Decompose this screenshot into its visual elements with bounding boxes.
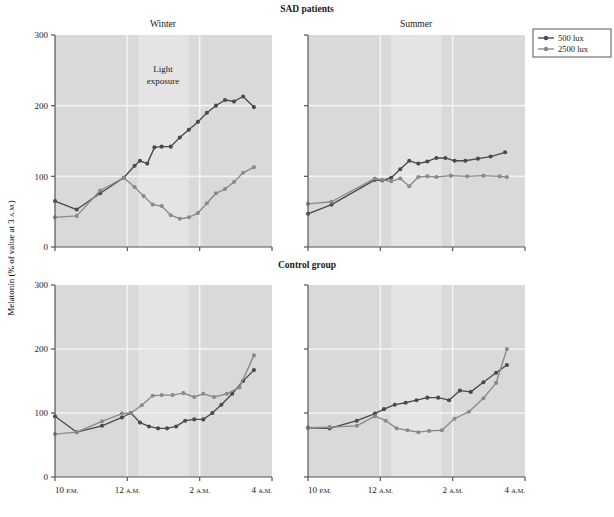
data-point <box>465 174 469 178</box>
x-tick-label-24: 12 A.M. <box>115 485 140 495</box>
data-point <box>395 426 399 430</box>
legend-label: 2500 lux <box>558 44 589 54</box>
data-point <box>75 214 79 218</box>
data-point <box>427 429 431 433</box>
data-point <box>183 419 187 423</box>
data-point <box>223 98 227 102</box>
data-point <box>196 211 200 215</box>
data-point <box>138 421 142 425</box>
data-point <box>223 187 227 191</box>
data-point <box>494 381 498 385</box>
data-point <box>100 424 104 428</box>
data-point <box>201 392 205 396</box>
data-point <box>481 396 485 400</box>
data-point <box>425 174 429 178</box>
data-point <box>122 176 126 180</box>
data-point <box>382 407 386 411</box>
data-point <box>98 188 102 192</box>
light-exposure-line2: exposure <box>147 76 180 86</box>
data-point <box>201 417 205 421</box>
legend-swatch-marker <box>544 36 548 40</box>
data-point <box>151 203 155 207</box>
data-point <box>160 393 164 397</box>
y-tick-label-200: 200 <box>35 344 49 354</box>
data-point <box>449 174 453 178</box>
data-point <box>443 156 447 160</box>
data-point <box>414 398 418 402</box>
data-point <box>329 200 333 204</box>
data-point <box>440 428 444 432</box>
data-point <box>120 412 124 416</box>
data-point <box>494 371 498 375</box>
data-point <box>373 414 377 418</box>
data-point <box>75 208 79 212</box>
legend-swatch-marker <box>544 47 548 51</box>
data-point <box>196 120 200 124</box>
x-tick-label-26: 2 A.M. <box>442 485 463 495</box>
data-point <box>142 194 146 198</box>
data-point <box>192 395 196 399</box>
y-tick-label-0: 0 <box>44 242 49 252</box>
group-title-control: Control group <box>278 260 336 270</box>
data-point <box>416 430 420 434</box>
data-point <box>434 175 438 179</box>
data-point <box>237 385 241 389</box>
data-point <box>398 176 402 180</box>
data-point <box>75 430 79 434</box>
panel-title-summer: Summer <box>400 19 433 29</box>
data-point <box>434 156 438 160</box>
data-point <box>355 424 359 428</box>
data-point <box>425 159 429 163</box>
data-point <box>476 157 480 161</box>
light-exposure-band <box>391 285 442 477</box>
data-point <box>407 184 411 188</box>
data-point <box>169 213 173 217</box>
data-point <box>187 128 191 132</box>
data-point <box>252 368 256 372</box>
x-tick-label-22: 10 P.M. <box>55 485 79 495</box>
panel-sad-summer <box>304 35 525 251</box>
data-point <box>481 380 485 384</box>
data-point <box>355 419 359 423</box>
y-axis-title: Melatonin (% of value at 3 A.M.) <box>6 200 16 316</box>
data-point <box>156 426 160 430</box>
data-point <box>389 179 393 183</box>
data-point <box>145 162 149 166</box>
group-title-sad: SAD patients <box>280 4 334 14</box>
data-point <box>384 419 388 423</box>
data-point <box>192 417 196 421</box>
data-point <box>120 415 124 419</box>
data-point <box>469 390 473 394</box>
data-point <box>174 424 178 428</box>
data-point <box>436 396 440 400</box>
data-point <box>393 403 397 407</box>
data-point <box>452 159 456 163</box>
y-tick-label-100: 100 <box>35 172 49 182</box>
data-point <box>498 174 502 178</box>
y-tick-label-100: 100 <box>35 408 49 418</box>
data-point <box>147 424 151 428</box>
x-tick-label-28: 4 A.M. <box>252 485 273 495</box>
data-point <box>214 191 218 195</box>
light-exposure-band <box>391 35 442 247</box>
data-point <box>505 363 509 367</box>
data-point <box>380 178 384 182</box>
data-point <box>170 393 174 397</box>
data-point <box>425 396 429 400</box>
y-tick-label-300: 300 <box>35 30 49 40</box>
data-point <box>328 425 332 429</box>
data-point <box>458 389 462 393</box>
data-point <box>133 164 137 168</box>
light-exposure-line1: Light <box>153 64 173 74</box>
data-point <box>405 428 409 432</box>
light-exposure-band <box>138 285 189 477</box>
data-point <box>232 99 236 103</box>
data-point <box>505 347 509 351</box>
data-point <box>151 394 155 398</box>
data-point <box>212 395 216 399</box>
panel-control-winter: 010020030010 P.M.12 A.M.2 A.M.4 A.M. <box>35 280 273 495</box>
x-tick-label-22: 10 P.M. <box>308 485 332 495</box>
x-tick-label-28: 4 A.M. <box>505 485 526 495</box>
data-point <box>241 171 245 175</box>
data-point <box>241 94 245 98</box>
